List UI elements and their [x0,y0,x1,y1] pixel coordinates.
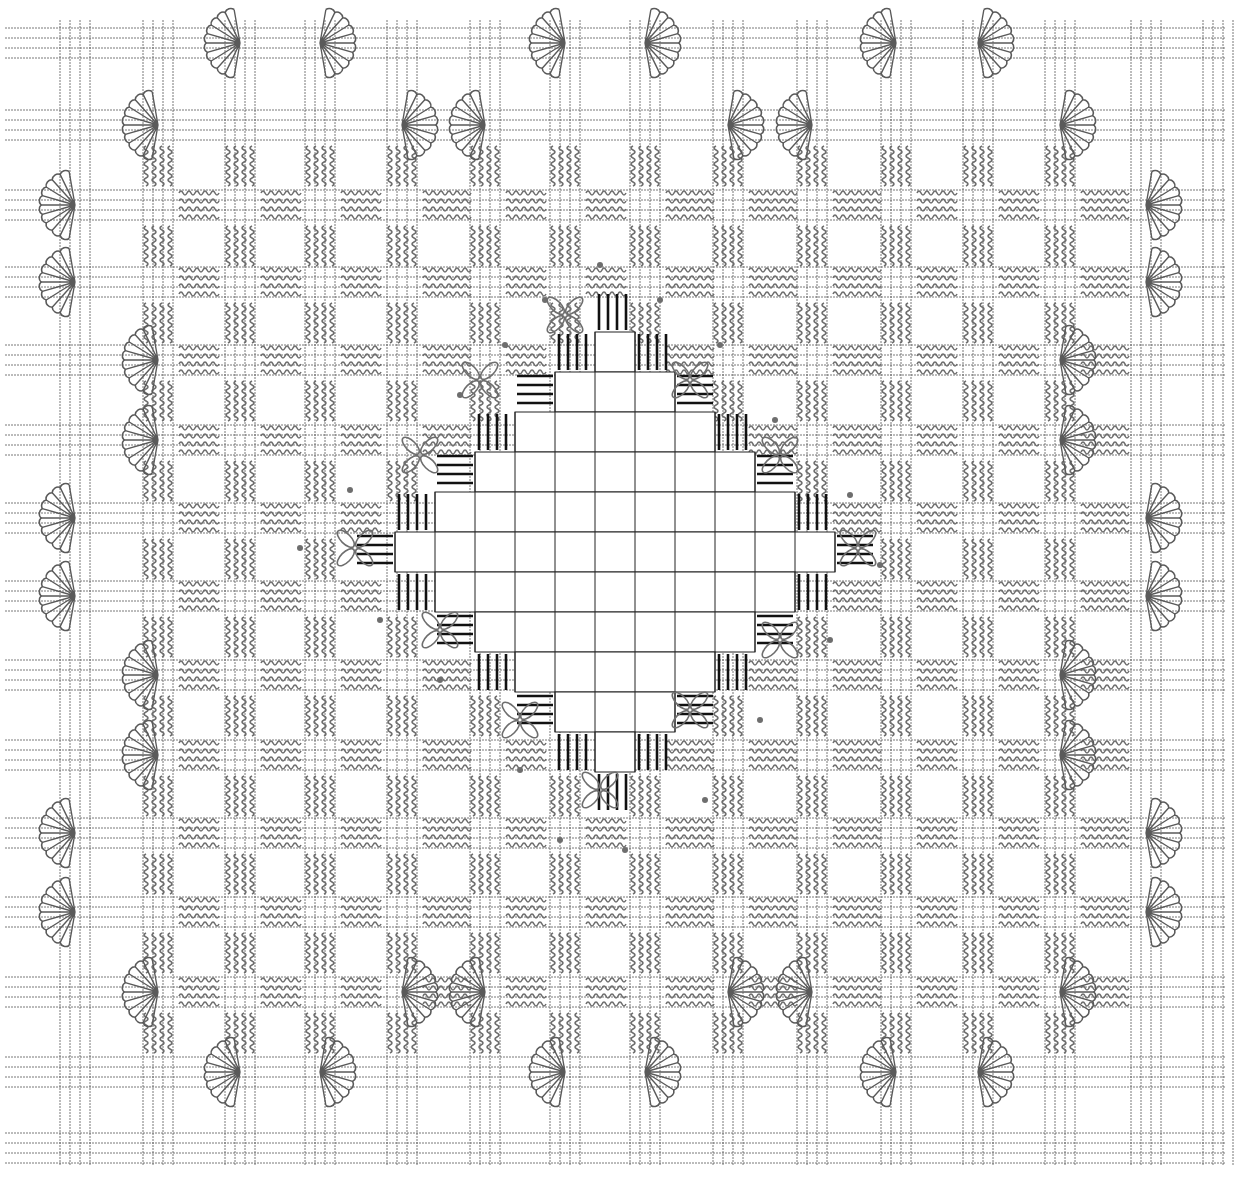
drawn-thread-diagram [0,0,1246,1185]
embroidery-pattern-canvas [0,0,1246,1185]
